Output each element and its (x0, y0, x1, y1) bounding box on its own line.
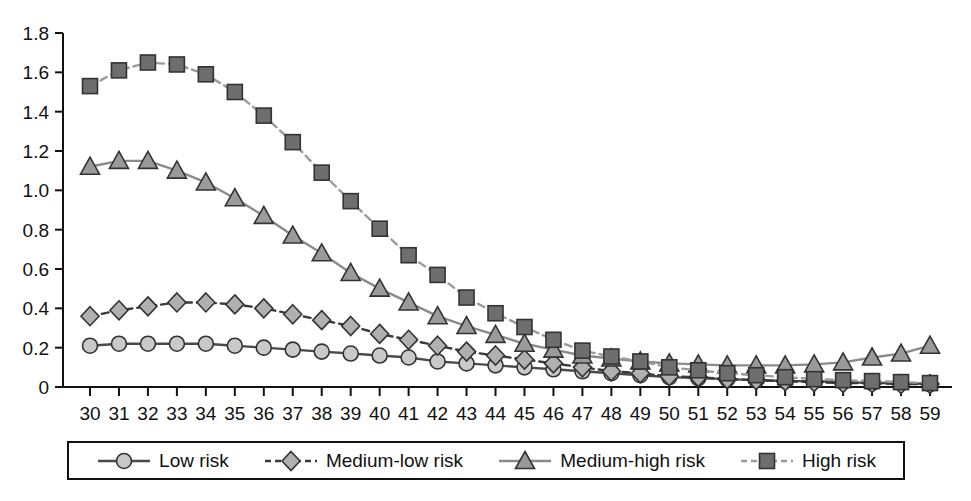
x-tick-label: 33 (166, 403, 187, 424)
x-tick-label: 52 (717, 403, 738, 424)
x-tick-label: 55 (804, 403, 825, 424)
x-tick-label: 54 (775, 403, 797, 424)
x-tick-label: 49 (630, 403, 651, 424)
legend-item-3[interactable]: High risk (739, 450, 876, 472)
square-marker (807, 372, 822, 387)
y-tick-label: 1.2 (23, 141, 49, 162)
x-tick-label: 47 (572, 403, 593, 424)
square-marker (836, 373, 851, 388)
square-marker (372, 221, 387, 236)
square-marker (488, 306, 503, 321)
square-marker (546, 332, 561, 347)
square-marker (343, 194, 358, 209)
diamond-marker (197, 293, 215, 312)
legend-label: Low risk (159, 451, 229, 470)
circle-marker (117, 453, 132, 468)
x-tick-label: 35 (224, 403, 245, 424)
square-marker (517, 320, 532, 335)
diamond-marker (313, 311, 331, 330)
triangle-marker (497, 450, 553, 472)
x-tick-label: 37 (282, 403, 303, 424)
triangle-marker (312, 244, 331, 261)
square-marker (169, 57, 184, 72)
x-tick-label: 45 (514, 403, 535, 424)
triangle-marker (341, 263, 360, 280)
square-marker (604, 349, 619, 364)
triangle-marker (225, 189, 244, 206)
y-tick-label: 1.6 (23, 62, 49, 83)
x-tick-label: 38 (311, 403, 332, 424)
diamond-marker (255, 299, 273, 318)
x-tick-label: 40 (369, 403, 390, 424)
x-tick-label: 39 (340, 403, 361, 424)
x-tick-label: 58 (890, 403, 911, 424)
square-marker (430, 267, 445, 282)
circle-marker (227, 338, 242, 353)
x-tick-label: 46 (543, 403, 564, 424)
y-tick-label: 0 (38, 377, 49, 398)
circle-marker (372, 348, 387, 363)
square-marker (285, 135, 300, 150)
x-tick-label: 59 (919, 403, 940, 424)
triangle-marker (196, 173, 215, 190)
x-tick-label: 31 (108, 403, 129, 424)
circle-marker (314, 344, 329, 359)
series-line (90, 63, 930, 384)
legend-item-0[interactable]: Low risk (96, 450, 229, 472)
circle-marker (140, 336, 155, 351)
diamond-marker (81, 307, 99, 326)
square-marker (923, 376, 938, 391)
x-tick-label: 57 (861, 403, 882, 424)
series-layer (81, 55, 940, 394)
y-tick-label: 0.4 (23, 298, 50, 319)
circle-marker (401, 350, 416, 365)
square-marker (83, 79, 98, 94)
x-tick-label: 56 (833, 403, 854, 424)
square-marker (662, 360, 677, 375)
triangle-marker (399, 293, 418, 310)
circle-marker (83, 338, 98, 353)
legend-label: High risk (802, 451, 876, 470)
triangle-marker (428, 307, 447, 324)
y-tick-label: 1.0 (23, 180, 49, 201)
diamond-marker (342, 317, 360, 336)
x-tick-label: 51 (688, 403, 709, 424)
series-line (90, 161, 930, 366)
x-tick-label: 34 (195, 403, 217, 424)
x-tick-label: 50 (659, 403, 680, 424)
square-marker (140, 55, 155, 70)
x-tick-label: 48 (601, 403, 622, 424)
chart-page: 00.20.40.60.81.01.21.41.61.8 30313233343… (0, 0, 971, 501)
x-tick-label: 32 (137, 403, 158, 424)
line-chart: 00.20.40.60.81.01.21.41.61.8 30313233343… (0, 0, 971, 432)
diamond-marker (139, 297, 157, 316)
circle-marker (256, 340, 271, 355)
diamond-marker (400, 330, 418, 349)
y-tick-label: 0.6 (23, 259, 49, 280)
x-tick-label: 41 (398, 403, 419, 424)
diamond-marker (284, 305, 302, 324)
square-marker (633, 354, 648, 369)
circle-marker (96, 450, 152, 472)
circle-marker (198, 336, 213, 351)
square-marker (720, 366, 735, 381)
legend-item-1[interactable]: Medium-low risk (263, 450, 463, 472)
x-tick-label: 36 (253, 403, 274, 424)
circle-marker (111, 336, 126, 351)
triangle-marker (254, 206, 273, 223)
square-marker (760, 453, 775, 468)
y-tick-label: 0.8 (23, 220, 49, 241)
square-marker (256, 108, 271, 123)
legend-item-2[interactable]: Medium-high risk (497, 450, 705, 472)
x-tick-label: 42 (427, 403, 448, 424)
square-marker (865, 374, 880, 389)
diamond-marker (226, 295, 244, 314)
square-marker (749, 368, 764, 383)
square-marker (739, 450, 795, 472)
circle-marker (169, 336, 184, 351)
circle-marker (285, 342, 300, 357)
chart-legend: Low riskMedium-low riskMedium-high riskH… (67, 441, 905, 480)
diamond-marker (282, 451, 300, 470)
diamond-marker (168, 293, 186, 312)
square-marker (111, 63, 126, 78)
